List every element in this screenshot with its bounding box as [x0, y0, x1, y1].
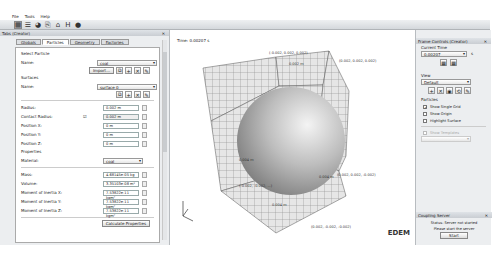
- creator-tabs-panel: Tabs (Creator) ✕ Globals Particles Geome…: [0, 30, 170, 245]
- time-unit: s: [471, 51, 473, 56]
- first-frame-icon[interactable]: ▦: [440, 59, 447, 66]
- 3d-viewer[interactable]: Time: 0.00207 s (-0.002, 0.002, 0.002) 0…: [171, 31, 414, 243]
- dock-close-icon[interactable]: ✕: [484, 39, 487, 44]
- particle-name-select[interactable]: coal: [97, 60, 157, 66]
- mass-label: Mass:: [21, 172, 103, 177]
- save-icon[interactable]: H: [64, 21, 72, 29]
- contact-radius-label: Contact Radius:: [21, 114, 103, 119]
- delete-icon[interactable]: ✕: [134, 67, 141, 74]
- material-label: Material:: [21, 158, 103, 163]
- position-z-spinner[interactable]: [142, 141, 147, 147]
- moi-z-spinner[interactable]: [142, 208, 147, 214]
- tab-geometry[interactable]: Geometry: [70, 39, 100, 45]
- add-view-icon[interactable]: +: [428, 87, 435, 94]
- add-icon[interactable]: +: [125, 67, 132, 74]
- checkbox-unchecked[interactable]: [423, 112, 427, 116]
- edit-icon[interactable]: ✎: [143, 67, 150, 74]
- volume-value: 3.35103e-08 m³: [103, 181, 139, 187]
- edit-surface-icon[interactable]: ✎: [143, 91, 150, 98]
- delete-surface-icon[interactable]: ✕: [134, 91, 141, 98]
- position-y-row: Position Y: 0 m: [21, 130, 154, 139]
- position-y-input[interactable]: 0 m: [103, 132, 139, 138]
- show-templates-checkbox[interactable]: Show Templates: [416, 129, 491, 136]
- remove-view-icon[interactable]: ✕: [437, 87, 444, 94]
- analyst-icon[interactable]: ◕: [34, 21, 42, 29]
- show-single-grid-label: Show Single Grid: [430, 105, 461, 109]
- radius-label: Radius:: [21, 105, 103, 110]
- tab-factories[interactable]: Factories: [101, 39, 129, 45]
- contact-radius-input[interactable]: 0.002 m: [103, 114, 139, 120]
- radius-input[interactable]: 0.002 m: [103, 105, 139, 111]
- dim-label-right: 0.004 m: [319, 175, 334, 179]
- template-select[interactable]: [421, 136, 471, 142]
- coord-top-right: (0.002, 0.002, 0.002): [339, 59, 376, 63]
- import-button[interactable]: Import...: [89, 67, 114, 74]
- coord-bottom-left: (-0.002, -0.002, ...): [239, 184, 272, 188]
- surface-name-select[interactable]: surface 0: [97, 84, 157, 90]
- creator-icon[interactable]: ▦: [14, 21, 22, 29]
- moi-x-value: 7.53822e-11 kgm²: [103, 190, 139, 196]
- add-surface-icon[interactable]: +: [125, 91, 132, 98]
- tab-bar: Globals Particles Geometry Factories: [0, 36, 169, 45]
- calculate-properties-button[interactable]: Calculate Properties: [102, 220, 150, 227]
- server-status: Status: Server not started: [416, 221, 492, 225]
- last-frame-icon[interactable]: ▦: [450, 59, 457, 66]
- mass-spinner[interactable]: [142, 172, 147, 178]
- export-icon[interactable]: ⌂: [54, 21, 62, 29]
- show-templates-label: Show Templates: [430, 131, 459, 135]
- scrollbar-thumb[interactable]: [163, 52, 167, 152]
- show-single-grid-checkbox[interactable]: ✓Show Single Grid: [416, 103, 491, 110]
- toolbar: ▦ ☰ ◕ ⎘ ⌂ H ●: [0, 20, 490, 30]
- copy-surface-icon[interactable]: ⧉: [116, 91, 123, 98]
- particles-tab-content: Select Particle Name: coal Import... ⧉ +…: [15, 47, 160, 243]
- coord-top-left: (-0.002, 0.002, 0.002): [269, 51, 308, 55]
- position-z-input[interactable]: 0 m: [103, 141, 139, 147]
- simulator-icon[interactable]: ☰: [24, 21, 32, 29]
- radius-spinner[interactable]: [142, 105, 147, 111]
- dock-close-icon[interactable]: ✕: [162, 31, 165, 36]
- particles-heading: Particles: [416, 96, 491, 103]
- material-select[interactable]: coal: [103, 158, 143, 164]
- edit-view-icon[interactable]: ✎: [464, 87, 471, 94]
- checkbox-disabled[interactable]: [423, 131, 427, 135]
- current-time-select[interactable]: 0.00207: [421, 51, 467, 57]
- position-x-input[interactable]: 0 m: [103, 123, 139, 129]
- position-y-label: Position Y:: [21, 132, 103, 137]
- moi-x-spinner[interactable]: [142, 190, 147, 196]
- help-icon[interactable]: ●: [74, 21, 82, 29]
- position-y-spinner[interactable]: [142, 132, 147, 138]
- reset-view-icon[interactable]: ⟲: [455, 87, 462, 94]
- camera-icon[interactable]: ◉: [446, 87, 453, 94]
- contact-radius-spinner[interactable]: [142, 114, 147, 120]
- mass-value: 4.68145e-05 kg: [103, 172, 139, 178]
- coord-mid-right: (0.002, 0.002, -0.002): [337, 173, 376, 177]
- highlight-surface-label: Highlight Surface: [430, 119, 461, 123]
- tab-globals[interactable]: Globals: [16, 39, 41, 45]
- checkbox-unchecked[interactable]: [423, 119, 427, 123]
- highlight-surface-checkbox[interactable]: Highlight Surface: [416, 117, 491, 124]
- tab-particles[interactable]: Particles: [42, 39, 69, 45]
- dock-close-icon[interactable]: ✕: [485, 213, 488, 218]
- dim-label-top: 0.002 m: [289, 62, 304, 66]
- edem-logo: EDEM: [388, 229, 410, 237]
- open-icon[interactable]: ⎘: [44, 21, 52, 29]
- radius-row: Radius: 0.002 m: [21, 103, 154, 112]
- coupling-server-title: Coupling Server: [418, 213, 450, 218]
- show-origin-checkbox[interactable]: Show Origin: [416, 110, 491, 117]
- copy-icon[interactable]: ⧉: [116, 67, 123, 74]
- view-heading: View: [416, 72, 491, 79]
- checkbox-checked[interactable]: ✓: [423, 105, 427, 109]
- moi-y-spinner[interactable]: [142, 199, 147, 205]
- contact-radius-checkbox[interactable]: ☑: [83, 114, 87, 119]
- start-server-button[interactable]: Start: [440, 232, 468, 239]
- volume-spinner[interactable]: [142, 181, 147, 187]
- contact-radius-row: Contact Radius: ☑ 0.002 m: [21, 112, 154, 121]
- view-select[interactable]: Default: [421, 79, 471, 85]
- surfaces-heading: Surfaces: [21, 74, 154, 82]
- panel-title: Tabs (Creator): [2, 31, 30, 36]
- position-z-row: Position Z: 0 m: [21, 139, 154, 148]
- position-x-row: Position X: 0 m: [21, 121, 154, 130]
- position-x-spinner[interactable]: [142, 123, 147, 129]
- frame-controls-title: Frame Controls (Creator): [418, 39, 468, 44]
- panel-scrollbar[interactable]: [162, 40, 167, 240]
